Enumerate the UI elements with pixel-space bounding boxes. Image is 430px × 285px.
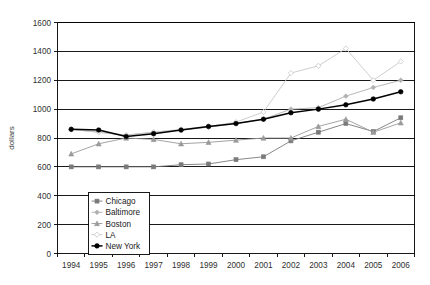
y-tick-label: 1000 xyxy=(33,105,52,114)
x-tick-label: 2004 xyxy=(337,261,356,270)
y-axis-title: dollars xyxy=(7,126,16,150)
data-point xyxy=(151,131,156,136)
data-point xyxy=(371,97,376,102)
x-tick-label: 2005 xyxy=(364,261,383,270)
data-point xyxy=(152,165,156,169)
y-tick-label: 600 xyxy=(37,163,51,172)
legend-label-baltimore: Baltimore xyxy=(106,208,141,217)
x-tick-label: 2006 xyxy=(392,261,411,270)
data-point xyxy=(344,122,348,126)
legend-label-chicago: Chicago xyxy=(106,197,136,206)
y-tick-label: 0 xyxy=(46,250,51,259)
legend-label-new-york: New York xyxy=(106,242,141,251)
x-tick-label: 2003 xyxy=(309,261,328,270)
legend-swatch-marker xyxy=(95,199,99,203)
y-axis-label: dollars xyxy=(7,126,16,150)
data-point xyxy=(316,107,321,112)
data-point xyxy=(97,165,101,169)
chart-canvas: 02004006008001000120014001600 1994199519… xyxy=(0,0,430,285)
legend-label-la: LA xyxy=(106,231,117,240)
x-tick-label: 2000 xyxy=(227,261,246,270)
legend-label-boston: Boston xyxy=(106,220,132,229)
x-tick-label: 1999 xyxy=(199,261,218,270)
data-point xyxy=(234,121,239,126)
data-point xyxy=(69,127,74,132)
legend-swatch-marker xyxy=(95,244,100,249)
data-point xyxy=(124,134,129,139)
data-point xyxy=(289,110,294,115)
data-point xyxy=(316,130,320,134)
chart-background xyxy=(0,0,430,285)
data-point xyxy=(206,124,211,129)
x-tick-label: 1997 xyxy=(145,261,164,270)
data-point xyxy=(344,102,349,107)
data-point xyxy=(69,165,73,169)
data-point xyxy=(179,128,184,133)
y-tick-label: 800 xyxy=(37,134,51,143)
line-chart: 02004006008001000120014001600 1994199519… xyxy=(0,0,430,285)
data-point xyxy=(261,117,266,122)
x-tick-label: 1996 xyxy=(117,261,136,270)
data-point xyxy=(96,128,101,133)
data-point xyxy=(234,158,238,162)
x-tick-label: 2002 xyxy=(282,261,301,270)
y-tick-label: 200 xyxy=(37,221,51,230)
data-point xyxy=(399,116,403,120)
chart-legend: ChicagoBaltimoreBostonLANew York xyxy=(89,193,150,255)
x-tick-label: 1998 xyxy=(172,261,191,270)
x-tick-label: 1994 xyxy=(62,261,81,270)
data-point xyxy=(398,90,403,95)
y-tick-label: 1200 xyxy=(33,76,52,85)
data-point xyxy=(207,162,211,166)
y-tick-label: 400 xyxy=(37,192,51,201)
y-tick-label: 1400 xyxy=(33,47,52,56)
data-point xyxy=(261,155,265,159)
y-tick-label: 1600 xyxy=(33,19,52,28)
data-point xyxy=(124,165,128,169)
x-tick-label: 2001 xyxy=(254,261,273,270)
data-point xyxy=(179,163,183,167)
x-tick-label: 1995 xyxy=(90,261,109,270)
